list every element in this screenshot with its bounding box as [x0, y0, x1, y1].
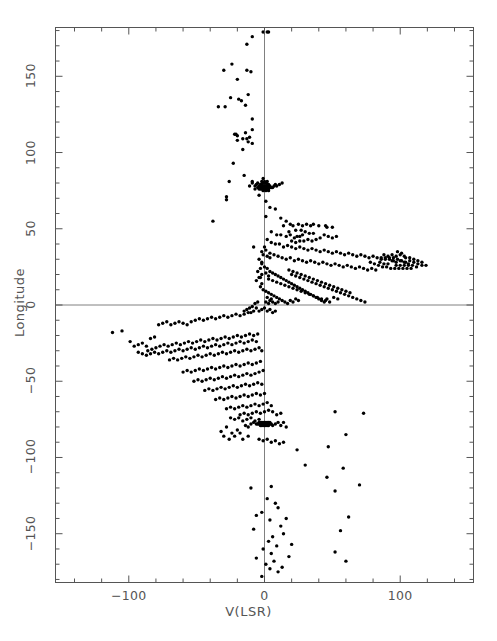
data-point: [261, 402, 264, 405]
data-point: [268, 256, 271, 259]
data-point: [325, 262, 328, 265]
data-point: [236, 78, 239, 81]
data-point: [270, 485, 273, 488]
data-point: [275, 280, 278, 283]
data-point: [229, 416, 232, 419]
data-point: [282, 532, 285, 535]
data-point: [223, 335, 226, 338]
data-point: [200, 355, 203, 358]
data-point: [280, 256, 283, 259]
data-point: [289, 256, 292, 259]
data-point: [192, 355, 195, 358]
data-point: [206, 346, 209, 349]
data-point: [256, 181, 259, 184]
x-axis-title: V(LSR): [0, 604, 497, 619]
data-point: [324, 299, 327, 302]
data-point: [295, 448, 298, 451]
data-point: [304, 291, 307, 294]
data-point: [268, 206, 271, 209]
data-point: [141, 341, 144, 344]
x-tick-label: 0: [235, 588, 295, 603]
data-point: [297, 222, 300, 225]
data-point: [210, 316, 213, 319]
data-point: [279, 233, 282, 236]
data-point: [149, 352, 152, 355]
data-point: [306, 238, 309, 241]
data-point: [394, 264, 397, 267]
data-point: [416, 262, 419, 265]
data-point: [297, 299, 300, 302]
data-point: [249, 373, 252, 376]
data-point: [318, 236, 321, 239]
data-point: [388, 256, 391, 259]
data-point: [294, 274, 297, 277]
data-point: [301, 259, 304, 262]
data-point: [299, 229, 302, 232]
data-point: [192, 380, 195, 383]
data-point: [153, 351, 156, 354]
data-point: [223, 387, 226, 390]
data-point: [236, 139, 239, 142]
data-point: [267, 277, 270, 280]
data-point: [255, 340, 258, 343]
data-point: [251, 142, 254, 145]
x-tick-label: −100: [99, 588, 159, 603]
data-point: [260, 262, 263, 265]
data-point: [198, 317, 201, 320]
data-point: [237, 405, 240, 408]
data-point: [242, 174, 245, 177]
data-point: [257, 404, 260, 407]
data-point: [392, 256, 395, 259]
data-point: [248, 332, 251, 335]
data-point: [209, 352, 212, 355]
data-point: [317, 262, 320, 265]
data-point: [237, 416, 240, 419]
data-point: [363, 255, 366, 258]
data-point: [145, 354, 148, 357]
data-point: [270, 404, 273, 407]
data-point: [120, 329, 123, 332]
data-point: [198, 367, 201, 370]
data-point: [238, 364, 241, 367]
data-point: [225, 195, 228, 198]
data-point: [210, 344, 213, 347]
data-point: [234, 312, 237, 315]
data-point: [382, 262, 385, 265]
data-point: [179, 343, 182, 346]
data-point: [251, 338, 254, 341]
data-point: [228, 180, 231, 183]
data-point: [259, 285, 262, 288]
data-point: [279, 412, 282, 415]
data-point: [287, 268, 290, 271]
y-tick-label: −50: [23, 351, 38, 411]
data-point: [214, 343, 217, 346]
data-point: [225, 376, 228, 379]
data-point: [294, 229, 297, 232]
data-point: [328, 283, 331, 286]
data-point: [412, 261, 415, 264]
data-point: [238, 431, 241, 434]
data-point: [339, 529, 342, 532]
data-point: [217, 376, 220, 379]
data-point: [165, 349, 168, 352]
data-point: [351, 296, 354, 299]
data-point: [267, 540, 270, 543]
data-point: [238, 314, 241, 317]
data-point: [233, 349, 236, 352]
data-point: [199, 338, 202, 341]
data-point: [294, 241, 297, 244]
data-point: [355, 255, 358, 258]
data-point: [161, 322, 164, 325]
data-point: [162, 343, 165, 346]
data-point: [271, 535, 274, 538]
data-point: [206, 367, 209, 370]
data-point: [166, 344, 169, 347]
data-point: [218, 316, 221, 319]
data-point: [217, 105, 220, 108]
data-point: [232, 335, 235, 338]
data-point: [149, 337, 152, 340]
data-point: [333, 489, 336, 492]
data-point: [316, 279, 319, 282]
data-point: [245, 372, 248, 375]
data-point: [323, 285, 326, 288]
